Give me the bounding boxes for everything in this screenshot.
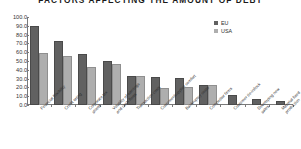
y-axis-tick-label: 50.0 bbox=[0, 58, 30, 64]
chart-legend: EU USA bbox=[214, 19, 232, 35]
legend-swatch-usa-icon bbox=[214, 29, 218, 33]
y-axis-tick-label: 40.0 bbox=[0, 67, 30, 73]
y-axis-tick-label: 10.0 bbox=[0, 93, 30, 99]
y-axis-tick-mark bbox=[27, 105, 29, 106]
legend-item-usa: USA bbox=[214, 27, 232, 34]
bar-group bbox=[78, 17, 96, 105]
y-axis-tick-label: 60.0 bbox=[0, 49, 30, 55]
y-axis-tick-label: 70.0 bbox=[0, 40, 30, 46]
y-axis-tick-label: 20.0 bbox=[0, 84, 30, 90]
legend-label-usa: USA bbox=[221, 28, 232, 34]
bar-usa bbox=[63, 56, 72, 105]
y-axis-tick-label: 90.0 bbox=[0, 23, 30, 29]
y-axis-tick-label: 80.0 bbox=[0, 32, 30, 38]
x-axis-tick-mark bbox=[172, 105, 173, 107]
legend-label-eu: EU bbox=[221, 20, 229, 26]
x-axis-tick-mark bbox=[148, 105, 149, 107]
x-axis-tick-mark bbox=[75, 105, 76, 107]
x-axis-tick-mark bbox=[245, 105, 246, 107]
x-axis-tick-mark bbox=[51, 105, 52, 107]
legend-item-eu: EU bbox=[214, 19, 232, 26]
y-axis-tick-label: 0.0 bbox=[0, 102, 30, 108]
bar-usa bbox=[39, 53, 48, 105]
bar-group bbox=[30, 17, 48, 105]
bar-chart: FACTORS AFFECTING THE AMOUNT OF DEBT 100… bbox=[0, 0, 301, 149]
y-axis-tick-label: 100.0 bbox=[0, 14, 30, 20]
chart-title: FACTORS AFFECTING THE AMOUNT OF DEBT bbox=[0, 0, 301, 5]
y-axis-tick-label: 30.0 bbox=[0, 76, 30, 82]
bar-eu bbox=[30, 26, 39, 105]
x-axis-tick-mark bbox=[220, 105, 221, 107]
x-axis-tick-mark bbox=[196, 105, 197, 107]
legend-swatch-eu-icon bbox=[214, 21, 218, 25]
